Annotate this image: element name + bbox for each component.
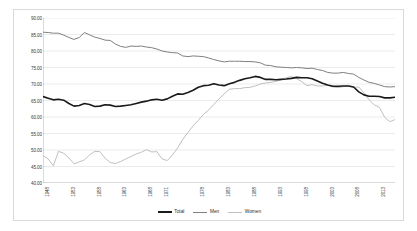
y-tick-label: 45.00 [16,164,42,169]
chart-lines [43,18,395,183]
chart-legend: Total Men Women [14,206,405,218]
x-tick-label: 2003 [330,187,335,197]
y-tick-label: 65.00 [16,98,42,103]
x-tick-label: 1993 [278,187,283,197]
x-tick-label: 2008 [355,187,360,197]
series-line-total [43,76,395,106]
x-tick-label: 1968 [148,187,153,197]
legend-label-men: Men [210,209,219,215]
legend-swatch-total [158,211,172,213]
legend-item-men: Men [193,209,219,215]
series-line-men [43,32,395,87]
y-tick-label: 40.00 [16,181,42,186]
x-tick-label: 1953 [71,187,76,197]
x-tick-label: 1998 [304,187,309,197]
legend-label-women: Women [245,209,261,215]
chart-container: 90.0085.0080.0075.0070.0065.0060.0055.00… [13,9,404,221]
legend-item-total: Total [158,209,185,215]
x-tick-label: 1988 [252,187,257,197]
plot-area [43,18,395,183]
y-tick-label: 90.00 [16,16,42,21]
x-tick-label: 1971 [164,187,169,197]
x-tick-label: 1963 [122,187,127,197]
y-axis: 90.0085.0080.0075.0070.0065.0060.0055.00… [16,18,42,183]
y-tick-label: 70.00 [16,82,42,87]
x-tick-label: 1948 [45,187,50,197]
y-tick-label: 60.00 [16,115,42,120]
x-tick-label: 2013 [381,187,386,197]
legend-label-total: Total [174,209,184,215]
x-tick-label: 1983 [226,187,231,197]
y-tick-label: 85.00 [16,32,42,37]
y-tick-label: 75.00 [16,65,42,70]
y-tick-label: 50.00 [16,148,42,153]
legend-item-women: Women [228,209,261,215]
legend-swatch-men [193,212,207,213]
y-tick-label: 55.00 [16,131,42,136]
series-line-women [43,76,395,165]
y-tick-label: 80.00 [16,49,42,54]
chart-plot-wrapper: 90.0085.0080.0075.0070.0065.0060.0055.00… [14,10,405,222]
x-tick-label: 1958 [97,187,102,197]
x-tick-label: 1978 [200,187,205,197]
legend-swatch-women [228,212,242,213]
